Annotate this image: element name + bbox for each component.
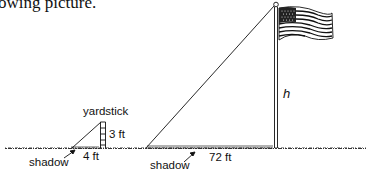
shadow-label-right: shadow <box>150 159 190 171</box>
flagpole-finial-icon <box>274 2 279 7</box>
flagpole-sun-ray <box>146 6 274 148</box>
ground-line <box>5 148 366 149</box>
flag-icon <box>279 7 333 40</box>
yardstick-label: yardstick <box>83 105 128 117</box>
flagpole-height-label: h <box>283 86 290 101</box>
yardstick-shadow-length-label: 4 ft <box>83 150 99 162</box>
similar-triangles-diagram <box>0 0 366 172</box>
yardstick-sun-ray <box>72 122 101 148</box>
yardstick <box>101 122 106 148</box>
shadow-label-left: shadow <box>29 156 69 168</box>
flagpole <box>274 2 279 148</box>
flagpole-shadow-length-label: 72 ft <box>209 151 231 163</box>
yardstick-height-label: 3 ft <box>109 128 125 140</box>
